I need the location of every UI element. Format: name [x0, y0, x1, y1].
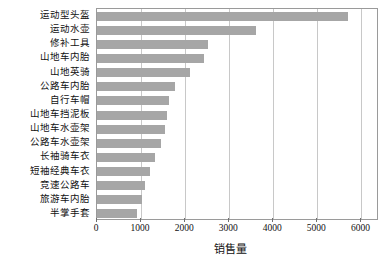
bar	[97, 139, 161, 148]
x-tick-mark	[140, 218, 141, 222]
x-tick-mark	[96, 218, 97, 222]
category-label: 公路车内胎	[40, 81, 90, 91]
bar-fill	[97, 125, 165, 134]
bar-fill	[97, 111, 167, 120]
x-tick-mark	[316, 218, 317, 222]
bar	[97, 82, 175, 91]
bar	[97, 26, 256, 35]
bar	[97, 96, 169, 105]
bar	[97, 167, 150, 176]
x-tick-label: 1000	[131, 222, 150, 234]
bar-fill	[97, 96, 169, 105]
x-tick-mark	[272, 218, 273, 222]
bar-chart: 运动型头盔运动水壶修补工具山地车内胎山地英骑公路车内胎自行车帽山地车挡泥板山地车…	[0, 0, 391, 263]
bar-fill	[97, 54, 204, 63]
bar-fill	[97, 82, 175, 91]
x-axis-title: 销售量	[0, 240, 391, 256]
bar-fill	[97, 40, 208, 49]
category-label: 山地英骑	[50, 67, 90, 77]
plot-area	[96, 8, 378, 220]
category-label: 旅游车内胎	[40, 194, 90, 204]
bar-fill	[97, 209, 137, 218]
x-tick-label: 5000	[307, 222, 326, 234]
x-tick-label: 0	[94, 222, 99, 234]
x-axis-title-text: 销售量	[144, 243, 247, 255]
category-label: 半掌手套	[50, 208, 90, 218]
bar	[97, 40, 208, 49]
bar-fill	[97, 139, 161, 148]
bar-fill	[97, 12, 348, 21]
category-label: 山地车水壶架	[30, 123, 90, 133]
x-tick-mark	[184, 218, 185, 222]
bar	[97, 195, 142, 204]
x-tick-label: 4000	[263, 222, 282, 234]
bar-fill	[97, 195, 142, 204]
category-label: 竞速公路车	[40, 180, 90, 190]
bar	[97, 111, 167, 120]
category-label: 长袖骑车衣	[40, 151, 90, 161]
bar-fill	[97, 181, 145, 190]
x-tick-label: 2000	[175, 222, 194, 234]
bar	[97, 12, 348, 21]
category-label: 山地车挡泥板	[30, 109, 90, 119]
category-label: 修补工具	[50, 38, 90, 48]
gridline	[361, 9, 362, 219]
gridline	[317, 9, 318, 219]
bar-fill	[97, 167, 150, 176]
category-label: 山地车内胎	[40, 52, 90, 62]
bar	[97, 181, 145, 190]
x-tick-label: 3000	[219, 222, 238, 234]
category-label: 公路车水壶架	[30, 137, 90, 147]
gridline	[273, 9, 274, 219]
bar	[97, 54, 204, 63]
bar	[97, 68, 190, 77]
gridline	[229, 9, 230, 219]
category-label: 短袖经典车衣	[30, 166, 90, 176]
bar-fill	[97, 153, 155, 162]
bar-fill	[97, 68, 190, 77]
category-axis-labels: 运动型头盔运动水壶修补工具山地车内胎山地英骑公路车内胎自行车帽山地车挡泥板山地车…	[0, 8, 93, 220]
category-label: 自行车帽	[50, 95, 90, 105]
bar	[97, 209, 137, 218]
x-tick-mark	[360, 218, 361, 222]
category-label: 运动水壶	[50, 24, 90, 34]
x-tick-mark	[228, 218, 229, 222]
bar	[97, 153, 155, 162]
bar	[97, 125, 165, 134]
x-tick-label: 6000	[351, 222, 370, 234]
category-label: 运动型头盔	[40, 10, 90, 20]
bar-fill	[97, 26, 256, 35]
value-axis-labels: 0100020003000400050006000	[96, 222, 378, 236]
